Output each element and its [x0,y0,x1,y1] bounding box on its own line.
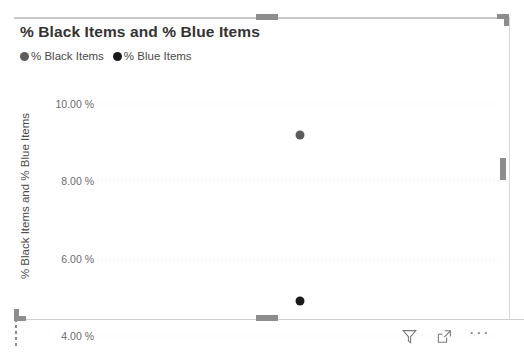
report-canvas: % Black Items and % Blue Items % Black I… [0,0,524,355]
y-gridline [98,104,501,105]
focus-mode-icon[interactable] [435,327,454,346]
legend-item-black-items[interactable]: % Black Items [20,50,104,62]
legend-dot-icon [113,52,122,61]
more-options-icon[interactable]: ··· [470,327,489,346]
resize-handle-bottom-left[interactable] [14,309,26,321]
y-axis-tick-label: 10.00 % [36,98,94,110]
resize-handle-top-right[interactable] [497,14,509,26]
legend-dot-icon [20,52,29,61]
filter-icon[interactable] [400,327,419,346]
visual-footer-toolbar: ··· [400,322,510,350]
legend-item-label: % Blue Items [124,50,192,62]
y-axis-title: % Black Items and % Blue Items [16,71,34,321]
resize-handle-right-middle[interactable] [500,158,506,180]
y-axis-tick-label: 8.00 % [36,175,94,187]
data-point[interactable] [295,296,304,305]
legend-item-label: % Black Items [31,50,104,62]
more-options-glyph: ··· [469,329,490,344]
scatter-chart-visual[interactable]: % Black Items and % Blue Items % Black I… [14,17,510,319]
y-axis-title-text: % Black Items and % Blue Items [19,113,31,279]
resize-handle-top-center[interactable] [256,14,278,20]
data-point[interactable] [295,131,304,140]
visual-title: % Black Items and % Blue Items [20,23,260,41]
resize-handle-bottom-center[interactable] [256,315,278,321]
y-gridline [98,181,501,182]
legend-item-blue-items[interactable]: % Blue Items [113,50,192,62]
chart-legend: % Black Items % Blue Items [20,50,192,62]
plot-area[interactable]: 10.00 %8.00 %6.00 %4.00 % [36,65,507,319]
y-gridline [98,258,501,259]
y-axis-tick-label: 6.00 % [36,253,94,265]
y-axis-tick-label: 4.00 % [36,330,94,342]
